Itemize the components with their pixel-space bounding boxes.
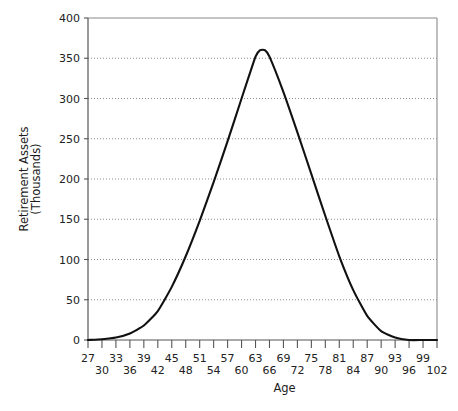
y-tick-label: 0	[73, 334, 80, 347]
x-tick-label-upper: 57	[221, 352, 235, 365]
x-tick-label-lower: 30	[95, 364, 109, 377]
x-tick-label-lower: 36	[123, 364, 137, 377]
x-tick-label-upper: 87	[360, 352, 374, 365]
x-tick-label-lower: 72	[290, 364, 304, 377]
x-tick-label-lower: 78	[318, 364, 332, 377]
x-tick-label-upper: 33	[109, 352, 123, 365]
y-tick-label: 250	[59, 133, 80, 146]
x-tick-label-lower: 48	[179, 364, 193, 377]
x-tick-label-upper: 69	[276, 352, 290, 365]
x-tick-label-upper: 51	[193, 352, 207, 365]
retirement-assets-chart: 0501001502002503003504002733394551576369…	[0, 0, 458, 411]
x-tick-label-lower: 90	[374, 364, 388, 377]
x-tick-label-lower: 102	[427, 364, 448, 377]
x-tick-label-upper: 45	[165, 352, 179, 365]
x-axis-title: Age	[273, 381, 295, 395]
y-tick-label: 300	[59, 93, 80, 106]
y-axis-title-line2: (Thousands)	[29, 143, 43, 214]
x-tick-label-upper: 93	[388, 352, 402, 365]
x-tick-label-lower: 66	[262, 364, 276, 377]
y-tick-label: 200	[59, 173, 80, 186]
x-tick-label-lower: 54	[207, 364, 221, 377]
data-series-line	[88, 50, 437, 340]
y-tick-label: 400	[59, 12, 80, 25]
y-tick-label: 150	[59, 213, 80, 226]
y-tick-label: 100	[59, 254, 80, 267]
chart-canvas: 0501001502002503003504002733394551576369…	[0, 0, 458, 411]
x-tick-label-upper: 39	[137, 352, 151, 365]
x-tick-label-upper: 81	[332, 352, 346, 365]
x-tick-label-upper: 27	[81, 352, 95, 365]
x-tick-label-upper: 75	[304, 352, 318, 365]
x-tick-label-lower: 60	[235, 364, 249, 377]
y-tick-label: 50	[66, 294, 80, 307]
x-tick-label-lower: 42	[151, 364, 165, 377]
x-tick-label-lower: 96	[402, 364, 416, 377]
x-tick-label-upper: 63	[249, 352, 263, 365]
y-tick-label: 350	[59, 52, 80, 65]
x-tick-label-lower: 84	[346, 364, 360, 377]
